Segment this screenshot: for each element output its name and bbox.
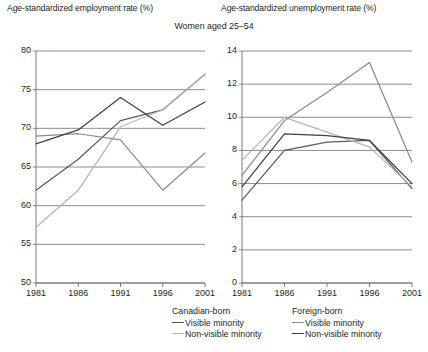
y-axis-tick-label: 60	[0, 200, 31, 210]
y-axis-tick-label: 0	[214, 277, 237, 287]
x-axis-tick-label: 1981	[16, 288, 56, 298]
legend-item-label: Visible minority	[305, 318, 364, 328]
series-line	[242, 140, 412, 200]
right-chart-axis-title: Age-standardized unemployment rate (%)	[221, 3, 376, 13]
legend-swatch-line-icon	[292, 322, 304, 323]
legend-group-foreign-born-title: Foreign-born	[292, 306, 382, 316]
y-axis-tick-label: 80	[0, 45, 31, 55]
employment-rate-plot	[0, 45, 214, 305]
series-line	[36, 74, 205, 190]
x-axis-tick-label: 1996	[143, 288, 183, 298]
series-line	[36, 134, 205, 190]
legend-item-foreign-non-visible-minority: Non-visible minority	[292, 328, 382, 339]
x-axis-tick-label: 1986	[58, 288, 98, 298]
legend-swatch-line-icon	[172, 333, 184, 334]
legend-item-canadian-visible-minority: Visible minority	[172, 317, 262, 328]
legend-group-foreign-born: Foreign-born Visible minority Non-visibl…	[292, 306, 382, 339]
x-axis-tick-label: 1991	[307, 288, 347, 298]
legend-item-foreign-visible-minority: Visible minority	[292, 317, 382, 328]
x-axis-tick-label: 1986	[265, 288, 305, 298]
legend-group-canadian-born: Canadian-born Visible minority Non-visib…	[172, 306, 262, 339]
legend-item-canadian-non-visible-minority: Non-visible minority	[172, 328, 262, 339]
legend-item-label: Visible minority	[185, 318, 244, 328]
unemployment-rate-chart: 0246810121419811986199119962001	[214, 45, 428, 305]
legend-item-label: Non-visible minority	[305, 329, 382, 339]
y-axis-tick-label: 50	[0, 277, 31, 287]
series-line	[242, 117, 412, 187]
left-chart-axis-title: Age-standardized employment rate (%)	[7, 3, 153, 13]
legend-item-label: Non-visible minority	[185, 329, 262, 339]
x-axis-tick-label: 1981	[222, 288, 262, 298]
legend-swatch-line-icon	[292, 333, 304, 334]
x-axis-tick-label: 1991	[101, 288, 141, 298]
figure-root: Age-standardized employment rate (%) Age…	[0, 0, 428, 352]
y-axis-tick-label: 4	[214, 211, 237, 221]
x-axis-tick-label: 1996	[350, 288, 390, 298]
employment-rate-chart: 5055606570758019811986199119962001	[0, 45, 214, 305]
y-axis-tick-label: 2	[214, 244, 237, 254]
y-axis-tick-label: 6	[214, 178, 237, 188]
y-axis-tick-label: 14	[214, 45, 237, 55]
y-axis-tick-label: 12	[214, 78, 237, 88]
legend-swatch-line-icon	[172, 322, 184, 323]
legend-group-canadian-born-title: Canadian-born	[172, 306, 262, 316]
figure-title: Women aged 25–54	[0, 21, 428, 31]
y-axis-tick-label: 65	[0, 161, 31, 171]
y-axis-tick-label: 10	[214, 111, 237, 121]
figure-legend: Canadian-born Visible minority Non-visib…	[0, 306, 428, 352]
x-axis-tick-label: 2001	[392, 288, 428, 298]
y-axis-tick-label: 8	[214, 144, 237, 154]
unemployment-rate-plot	[214, 45, 428, 305]
y-axis-tick-label: 75	[0, 84, 31, 94]
y-axis-tick-label: 55	[0, 238, 31, 248]
y-axis-tick-label: 70	[0, 122, 31, 132]
